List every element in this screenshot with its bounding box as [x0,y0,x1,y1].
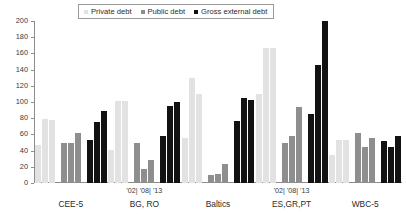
legend-label-public-debt: Public debt [148,7,186,16]
x-group-label: Baltics [181,199,255,209]
bar-group [328,21,402,183]
bar [189,78,195,183]
bar [94,122,100,183]
x-label-cell: '02| '08| '13BG, RO [108,186,182,220]
legend-item-public-debt: Public debt [141,7,186,16]
bar [381,141,387,183]
bar [141,169,147,183]
bar [248,100,254,183]
y-tick-label: 20 [4,163,28,171]
bar [296,107,302,183]
series-spacer [277,182,281,183]
bar [115,101,121,183]
bar [196,94,202,183]
bar [355,133,361,183]
bar [322,21,328,183]
chart-legend: Private debt Public debt Gross external … [78,4,274,19]
bar [369,138,375,183]
legend-label-gross-external-debt: Gross external debt [201,7,267,16]
bar [388,147,394,183]
x-label-cell: CEE-5 [34,186,108,220]
legend-item-private-debt: Private debt [84,7,132,16]
bar [148,160,154,183]
bar [256,94,262,183]
bar [49,120,55,183]
x-group-label: ES,GR,PT [255,199,329,209]
bar-group [255,21,329,183]
bar [289,136,295,183]
y-tick-label: 140 [4,66,28,74]
legend-swatch-gross-external-debt [194,10,198,14]
x-label-cell: WBC-5 [328,186,402,220]
y-tick-label: 40 [4,147,28,155]
bar [134,143,140,183]
plot-area [34,21,402,183]
y-tick-label: 180 [4,33,28,41]
series-spacer [129,182,133,183]
series-spacer [155,182,159,183]
bar [68,143,74,184]
series-spacer [376,182,380,183]
series-spacer [203,182,207,183]
bar [362,147,368,183]
debt-bar-chart: Private debt Public debt Gross external … [0,0,406,224]
bar [282,143,288,183]
bar [336,140,342,183]
x-subcategory-label: '02| '08| '13 [108,186,182,195]
bar [108,150,114,183]
legend-swatch-public-debt [141,10,145,14]
bar [215,174,221,183]
x-group-label: CEE-5 [34,199,108,209]
bar-group [34,21,108,183]
x-label-cell: Baltics [181,186,255,220]
bar [167,106,173,183]
bar [35,145,41,183]
y-tick-label: 0 [4,179,28,187]
y-tick-label: 100 [4,98,28,106]
bar [174,102,180,183]
bar-group [108,21,182,183]
y-tick-label: 80 [4,114,28,122]
x-subcategory-label: '02| '08| '13 [255,186,329,195]
bar [234,121,240,183]
bar [329,155,335,183]
bar [241,98,247,183]
series-spacer [303,182,307,183]
bar [343,140,349,183]
bar-groups [34,21,402,183]
bar [101,111,107,183]
series-spacer [56,182,60,183]
x-axis-labels: CEE-5'02| '08| '13BG, ROBaltics'02| '08|… [34,186,402,220]
bar [61,143,67,184]
series-spacer [82,182,86,183]
bar [308,114,314,183]
x-group-label: BG, RO [108,199,182,209]
y-tick-label: 120 [4,82,28,90]
bar [160,136,166,183]
y-tick-label: 200 [4,17,28,25]
y-tick-label: 160 [4,49,28,57]
legend-swatch-private-debt [84,10,88,14]
bar-group [181,21,255,183]
bar [395,136,401,183]
x-label-cell: '02| '08| '13ES,GR,PT [255,186,329,220]
bar [42,119,48,183]
y-tick-label: 60 [4,130,28,138]
bar [122,101,128,183]
bar [87,140,93,183]
legend-item-gross-external-debt: Gross external debt [194,7,267,16]
bar [75,133,81,183]
bar [222,164,228,183]
bar [270,48,276,183]
series-spacer [229,182,233,183]
bar [263,48,269,183]
bar [208,175,214,183]
bar [315,65,321,183]
legend-label-private-debt: Private debt [91,7,132,16]
series-spacer [350,182,354,183]
y-tick-mark [31,183,34,184]
x-group-label: WBC-5 [328,199,402,209]
bar [182,138,188,183]
